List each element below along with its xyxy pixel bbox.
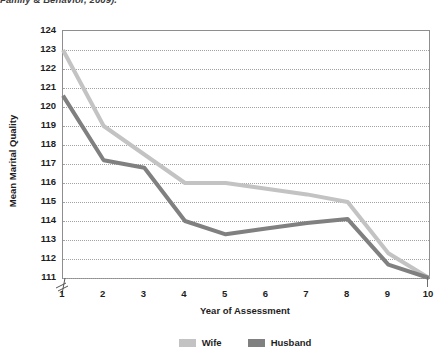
x-axis-tick-label: 4 xyxy=(172,288,196,300)
x-axis-tick-label: 5 xyxy=(213,288,237,300)
y-axis-tick-label: 123 xyxy=(24,44,56,54)
y-axis-tick-label: 112 xyxy=(24,253,56,263)
caption-fragment: Family & Behavior, 2009). xyxy=(0,0,240,7)
x-axis-tick-label: 1 xyxy=(50,288,74,300)
chart-figure: Family & Behavior, 2009). Mean Marital Q… xyxy=(0,0,443,357)
x-axis-title: Year of Assessment xyxy=(62,305,428,316)
y-axis-tick-label: 122 xyxy=(24,63,56,73)
legend-entry-husband[interactable]: Husband xyxy=(248,338,312,348)
x-axis-tick-label: 7 xyxy=(294,288,318,300)
legend-label: Husband xyxy=(271,338,312,348)
y-axis-tick-label: 121 xyxy=(24,82,56,92)
x-axis-end-tick xyxy=(427,277,428,287)
x-axis-tick-label: 3 xyxy=(131,288,155,300)
x-axis-tick-label: 2 xyxy=(91,288,115,300)
gridline xyxy=(63,278,429,279)
x-axis-tick-label: 6 xyxy=(253,288,277,300)
y-axis-title-text: Mean Marital Quality xyxy=(7,115,18,207)
legend-entry-wife[interactable]: Wife xyxy=(179,338,222,348)
y-axis-tick-label: 119 xyxy=(24,120,56,130)
y-axis-tick-label: 118 xyxy=(24,139,56,149)
y-axis-tick-label: 114 xyxy=(24,215,56,225)
series-lines xyxy=(63,31,429,278)
legend-swatch-icon xyxy=(179,339,196,347)
chart-legend: WifeHusband xyxy=(62,335,428,351)
x-axis-tick-labels: 12345678910 xyxy=(62,288,428,302)
y-axis-tick-label: 124 xyxy=(24,25,56,35)
x-axis-tick-label: 10 xyxy=(416,288,440,300)
plot-inner xyxy=(63,31,429,278)
y-axis-tick-label: 111 xyxy=(24,272,56,282)
legend-swatch-icon xyxy=(248,339,265,347)
y-axis-tick-label: 113 xyxy=(24,234,56,244)
y-axis-tick-label: 117 xyxy=(24,158,56,168)
y-axis-tick-label: 116 xyxy=(24,177,56,187)
x-axis-tick-label: 8 xyxy=(335,288,359,300)
y-axis-tick-label: 120 xyxy=(24,101,56,111)
y-axis-tick-label: 115 xyxy=(24,196,56,206)
y-axis-tick-labels: 1241231221211201191181171161151141131121… xyxy=(24,24,56,284)
x-axis-tick-label: 9 xyxy=(375,288,399,300)
legend-label: Wife xyxy=(202,338,222,348)
plot-area xyxy=(62,30,430,279)
caption-text: Family & Behavior, 2009). xyxy=(0,0,240,7)
y-axis-title: Mean Marital Quality xyxy=(2,96,22,226)
